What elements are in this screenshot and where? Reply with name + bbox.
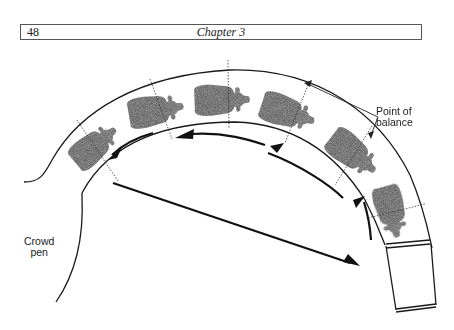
balance-callout	[308, 84, 378, 135]
chute-left	[386, 246, 396, 310]
crowd-pen-wall	[56, 193, 82, 302]
chute-gate-bottom	[396, 304, 436, 312]
curved-race-diagram	[0, 0, 454, 330]
chute-right	[431, 244, 436, 305]
animal-3	[194, 83, 251, 116]
animals	[65, 83, 411, 241]
animal-6	[370, 183, 412, 241]
animal-1	[65, 117, 124, 173]
animal-5	[322, 124, 385, 183]
label-line: balance	[376, 117, 413, 128]
animal-4	[257, 89, 319, 136]
chute-gate-top	[386, 240, 430, 248]
point-of-balance-label: Point of balance	[376, 106, 413, 128]
crowd-pen-label: Crowd pen	[24, 236, 54, 258]
label-line: pen	[24, 247, 54, 258]
